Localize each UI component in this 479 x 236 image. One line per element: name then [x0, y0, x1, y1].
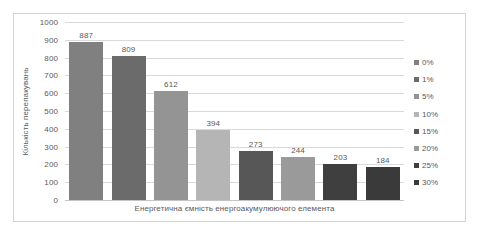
bar-value-label: 203 — [319, 153, 361, 162]
bar-slot: 184 — [362, 22, 404, 200]
bar[interactable] — [154, 91, 188, 200]
legend-swatch-icon — [414, 163, 419, 168]
bar-slot: 244 — [277, 22, 319, 200]
legend-label: 30% — [422, 178, 438, 187]
legend-swatch-icon — [414, 60, 419, 65]
legend-label: 20% — [422, 144, 438, 153]
y-axis-tick-label: 200 — [44, 160, 58, 169]
legend-item[interactable]: 5% — [414, 88, 466, 105]
y-axis-tick-label: 600 — [44, 89, 58, 98]
bar[interactable] — [366, 167, 400, 200]
legend-label: 10% — [422, 110, 438, 119]
legend-swatch-icon — [414, 112, 419, 117]
bar-value-label: 887 — [65, 31, 107, 40]
y-axis-tick-label: 100 — [44, 178, 58, 187]
legend-item[interactable]: 1% — [414, 71, 466, 88]
y-axis-tick-label: 500 — [44, 107, 58, 116]
bar[interactable] — [69, 42, 103, 200]
bar-slot: 273 — [235, 22, 277, 200]
y-axis-tick-label: 0 — [53, 196, 58, 205]
legend-item[interactable]: 30% — [414, 174, 466, 191]
y-axis-tick-label: 1000 — [40, 18, 58, 27]
legend-swatch-icon — [414, 146, 419, 151]
bar-value-label: 273 — [235, 140, 277, 149]
bar-slot: 394 — [192, 22, 234, 200]
bar-value-label: 809 — [107, 45, 149, 54]
legend-label: 15% — [422, 127, 438, 136]
legend-label: 0% — [422, 58, 434, 67]
bar-slot: 887 — [65, 22, 107, 200]
y-axis-tick-label: 900 — [44, 35, 58, 44]
bar-series: 887809612394273244203184 — [65, 22, 404, 200]
legend-label: 1% — [422, 75, 434, 84]
bar[interactable] — [323, 164, 357, 200]
bar-slot: 612 — [150, 22, 192, 200]
legend-item[interactable]: 25% — [414, 157, 466, 174]
legend-swatch-icon — [414, 180, 419, 185]
y-axis-tick-label: 800 — [44, 53, 58, 62]
legend-label: 25% — [422, 161, 438, 170]
gridline — [65, 200, 404, 201]
legend-swatch-icon — [414, 94, 419, 99]
legend-item[interactable]: 20% — [414, 140, 466, 157]
x-axis-title: Енергетична ємність енергоакумулюючого е… — [65, 204, 404, 213]
legend-item[interactable]: 0% — [414, 54, 466, 71]
bar-slot: 203 — [319, 22, 361, 200]
bar-value-label: 184 — [362, 156, 404, 165]
bar-value-label: 244 — [277, 146, 319, 155]
y-axis-tick-label: 700 — [44, 71, 58, 80]
bar[interactable] — [281, 157, 315, 200]
bar-slot: 809 — [107, 22, 149, 200]
chart-container: Кількість перепакувань 10009008007006005… — [13, 13, 466, 222]
legend-item[interactable]: 10% — [414, 106, 466, 123]
y-axis-tick-label: 300 — [44, 142, 58, 151]
bar-value-label: 394 — [192, 119, 234, 128]
chart-legend: 0%1%5%10%15%20%25%30% — [414, 54, 466, 192]
legend-swatch-icon — [414, 77, 419, 82]
legend-swatch-icon — [414, 129, 419, 134]
legend-item[interactable]: 15% — [414, 123, 466, 140]
plot-area: 887809612394273244203184 — [65, 22, 404, 200]
y-axis-tick-labels: 10009008007006005004003002001000 — [14, 22, 62, 200]
legend-label: 5% — [422, 92, 434, 101]
bar[interactable] — [112, 56, 146, 200]
bar[interactable] — [196, 130, 230, 200]
bar-value-label: 612 — [150, 80, 192, 89]
y-axis-tick-label: 400 — [44, 124, 58, 133]
bar[interactable] — [239, 151, 273, 200]
